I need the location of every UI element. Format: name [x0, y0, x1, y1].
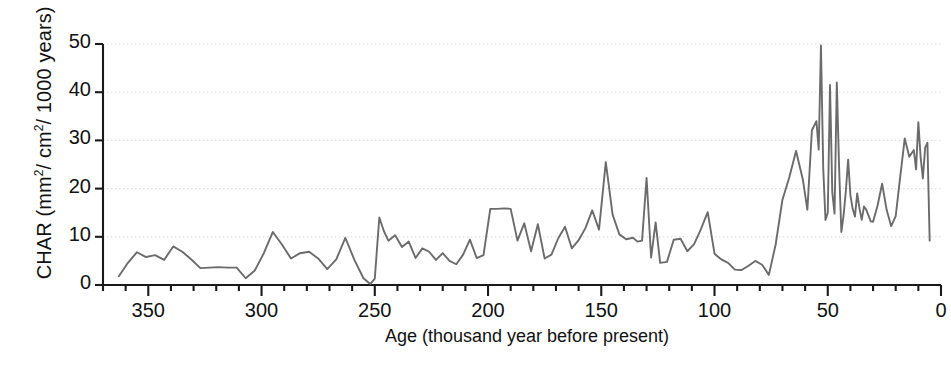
y-tick-label-40: 40: [47, 78, 91, 101]
x-tick-label-300: 300: [222, 299, 302, 322]
data-series-line: [119, 45, 930, 284]
x-tick-label-350: 350: [108, 299, 188, 322]
axis-lines: [103, 44, 941, 285]
x-tick-label-200: 200: [448, 299, 528, 322]
x-tick-label-100: 100: [675, 299, 755, 322]
y-tick-label-20: 20: [47, 175, 91, 198]
y-tick-label-50: 50: [47, 30, 91, 53]
y-tick-label-10: 10: [47, 223, 91, 246]
x-tick-label-250: 250: [335, 299, 415, 322]
y-tick-label-0: 0: [47, 271, 91, 294]
axis-ticks: [95, 44, 941, 296]
x-tick-label-0: 0: [901, 299, 951, 322]
chart-figure: CHAR (mm2/ cm2/ 1000 years) Age (thousan…: [0, 0, 951, 369]
x-tick-label-50: 50: [788, 299, 868, 322]
x-tick-label-150: 150: [561, 299, 641, 322]
gridlines: [103, 44, 941, 237]
y-tick-label-30: 30: [47, 126, 91, 149]
